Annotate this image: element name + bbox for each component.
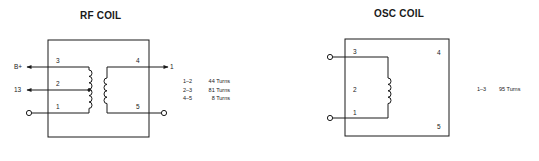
spec-pins: 4–5	[183, 94, 203, 103]
rf-pin-2: 2	[56, 80, 60, 87]
rf-coil-schematic	[26, 40, 168, 137]
spec-turns: 81 Turns	[203, 86, 230, 95]
osc-pin-4: 4	[437, 49, 441, 56]
rf-label-output: 1	[170, 63, 174, 70]
osc-turns-table: 1–3 95 Turns	[477, 85, 526, 94]
rf-pin-5: 5	[136, 103, 140, 110]
spec-turns: 8 Turns	[203, 94, 230, 103]
rf-tap-dot	[88, 89, 91, 92]
rf-pin-1: 1	[56, 103, 60, 110]
spec-pins: 1–3	[477, 85, 499, 94]
rf-terminal-1	[26, 110, 31, 115]
osc-pin-5: 5	[437, 123, 441, 130]
osc-terminal-1	[327, 115, 332, 120]
osc-coil-can	[345, 39, 449, 136]
rf-label-tap: 13	[14, 86, 22, 93]
osc-pin-1: 1	[353, 109, 357, 116]
rf-pin-3: 3	[56, 57, 60, 64]
spec-turns: 95 Turns	[499, 85, 526, 94]
rf-terminal-5	[161, 110, 166, 115]
rf-secondary-coil-icon	[104, 67, 107, 113]
rf-coil-can	[48, 40, 149, 137]
osc-terminal-3	[327, 54, 332, 59]
spec-row: 1–3 95 Turns	[477, 85, 526, 94]
spec-row: 2–3 81 Turns	[183, 86, 230, 95]
spec-row: 4–5 8 Turns	[183, 94, 230, 103]
spec-row: 1–2 44 Turns	[183, 77, 230, 86]
spec-pins: 1–2	[183, 77, 203, 86]
osc-pin-3: 3	[353, 48, 357, 55]
rf-turns-table: 1–2 44 Turns 2–3 81 Turns 4–5 8 Turns	[183, 77, 230, 103]
osc-pin-2: 2	[353, 86, 357, 93]
rf-label-b-plus: B+	[14, 63, 22, 70]
rf-pin-4: 4	[136, 57, 140, 64]
spec-pins: 2–3	[183, 86, 203, 95]
schematic-canvas: 3 2 1 4 5 B+ 13 1 3 2 1 4 5	[0, 0, 539, 161]
osc-coil-icon	[388, 57, 391, 118]
spec-turns: 44 Turns	[203, 77, 230, 86]
osc-coil-schematic	[327, 39, 449, 136]
